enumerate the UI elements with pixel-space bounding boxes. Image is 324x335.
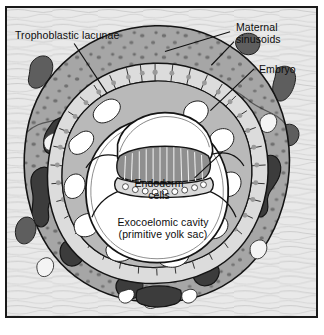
label-exocoelomic-line2: (primitive yolk sac)	[119, 228, 208, 240]
diagram-svg	[7, 8, 316, 316]
implantation-diagram	[7, 8, 316, 316]
label-maternal-sinusoids-line1: Maternal	[236, 21, 278, 33]
label-maternal-sinusoids-line2: sinusoids	[236, 33, 281, 45]
figure-frame: Trophoblastic lacunae Maternalsinusoids …	[5, 6, 318, 318]
label-exocoelomic-line1: Exocoelomic cavity	[117, 216, 208, 228]
label-maternal-sinusoids: Maternalsinusoids	[236, 22, 281, 45]
label-endoderm-cells: Endodermcells	[118, 178, 200, 201]
label-exocoelomic-cavity: Exocoelomic cavity(primitive yolk sac)	[87, 217, 239, 240]
figure-root: Trophoblastic lacunae Maternalsinusoids …	[0, 0, 324, 335]
label-endoderm-line1: Endoderm	[134, 177, 183, 189]
label-embryo: Embryo	[259, 64, 296, 76]
label-endoderm-line2: cells	[148, 189, 170, 201]
implantation-plug	[136, 286, 181, 307]
label-trophoblastic-lacunae: Trophoblastic lacunae	[15, 30, 119, 42]
